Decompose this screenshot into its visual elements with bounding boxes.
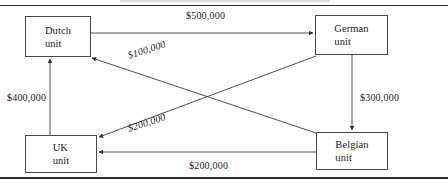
- arrow-belgian-to-dutch: [92, 58, 316, 133]
- flow-diagram: Dutch unit German unit UK unit Belgian u…: [0, 0, 448, 183]
- edge-label-german-to-belgian: $300,000: [360, 92, 399, 103]
- node-dutch-unit-label-line2: unit: [45, 37, 62, 50]
- node-uk-unit-label-line1: UK: [53, 141, 68, 154]
- node-belgian-unit: Belgian unit: [316, 132, 388, 170]
- node-dutch-unit-label-line1: Dutch: [45, 24, 71, 37]
- node-german-unit-label-line2: unit: [334, 35, 351, 48]
- node-german-unit-label-line1: German: [334, 22, 368, 35]
- node-german-unit: German unit: [315, 15, 388, 55]
- node-uk-unit-label-line2: unit: [53, 154, 70, 167]
- node-dutch-unit: Dutch unit: [25, 16, 91, 57]
- node-belgian-unit-label-line1: Belgian: [335, 138, 368, 151]
- node-belgian-unit-label-line2: unit: [335, 151, 352, 164]
- edge-label-belgian-to-uk: $200,000: [189, 160, 228, 171]
- edge-label-uk-to-dutch: $400,000: [7, 92, 46, 103]
- node-uk-unit: UK unit: [25, 135, 97, 173]
- edge-label-dutch-to-german: $500,000: [186, 10, 225, 21]
